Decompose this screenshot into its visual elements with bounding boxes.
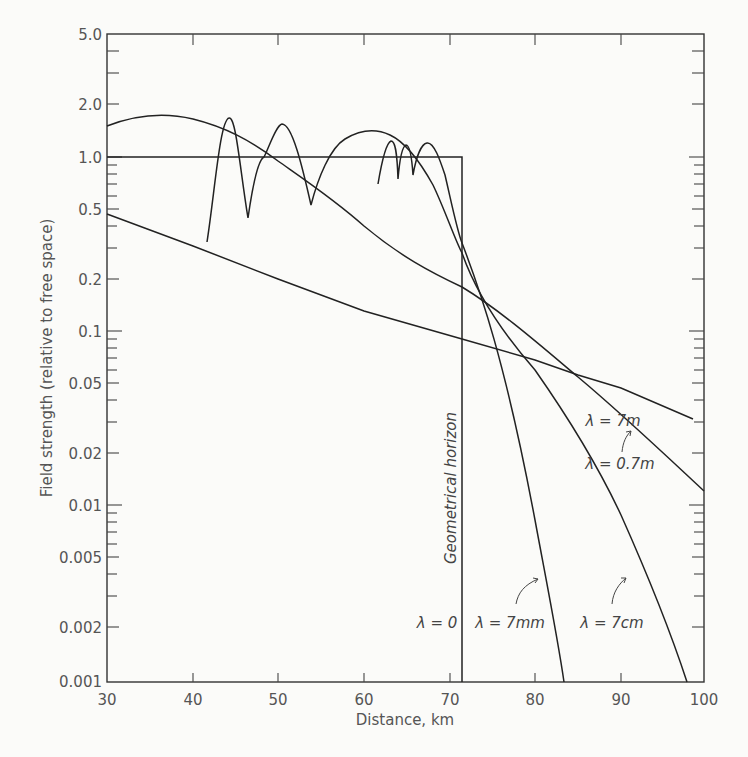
series-lambda-0 — [107, 157, 462, 682]
y-tick-2: 2.0 — [78, 96, 102, 114]
y-tick-labels: 5.0 2.0 1.0 0.5 0.2 0.1 0.05 0.02 0.01 0… — [59, 26, 102, 691]
x-tick-90: 90 — [611, 691, 630, 709]
y-tick-1: 1.0 — [78, 149, 102, 167]
series-lambda-0-7m — [107, 115, 704, 491]
y-tick-0-01: 0.01 — [69, 497, 102, 515]
label-lambda-7mm: λ = 7mm — [474, 614, 545, 632]
arrow-lambda-0-7m — [622, 431, 631, 452]
x-tick-40: 40 — [183, 691, 202, 709]
y-tick-0-001: 0.001 — [59, 673, 102, 691]
y-tick-0-1: 0.1 — [78, 323, 102, 341]
x-tick-70: 70 — [440, 691, 459, 709]
y-tick-0-002: 0.002 — [59, 619, 102, 637]
x-tick-60: 60 — [354, 691, 373, 709]
geometrical-horizon-label: Geometrical horizon — [442, 412, 460, 564]
y-tick-5: 5.0 — [78, 26, 102, 44]
x-tick-100: 100 — [690, 691, 719, 709]
series-lambda-7cm — [207, 118, 687, 682]
label-lambda-0: λ = 0 — [416, 614, 458, 632]
series-lambda-7mm — [378, 141, 564, 682]
field-strength-chart: 5.0 2.0 1.0 0.5 0.2 0.1 0.05 0.02 0.01 0… — [0, 0, 748, 757]
label-lambda-0-7m: λ = 0.7m — [584, 455, 654, 473]
series-lambda-7m — [107, 214, 693, 419]
x-tick-80: 80 — [525, 691, 544, 709]
y-tick-0-2: 0.2 — [78, 271, 102, 289]
label-lambda-7cm: λ = 7cm — [579, 614, 643, 632]
x-axis-title: Distance, km — [356, 711, 454, 729]
x-tick-30: 30 — [97, 691, 116, 709]
y-tick-0-02: 0.02 — [69, 445, 102, 463]
x-tick-labels: 30 40 50 60 70 80 90 100 — [97, 691, 718, 709]
label-lambda-7m: λ = 7m — [584, 412, 640, 430]
y-axis-ticks-right — [689, 51, 704, 627]
y-tick-0-5: 0.5 — [78, 201, 102, 219]
y-axis-ticks-left — [107, 51, 122, 627]
y-axis-title: Field strength (relative to free space) — [38, 219, 56, 498]
arrow-lambda-7cm — [612, 578, 626, 604]
x-tick-50: 50 — [268, 691, 287, 709]
y-tick-0-05: 0.05 — [69, 375, 102, 393]
x-axis-ticks — [193, 34, 621, 682]
y-tick-0-005: 0.005 — [59, 549, 102, 567]
plot-frame — [107, 34, 704, 682]
